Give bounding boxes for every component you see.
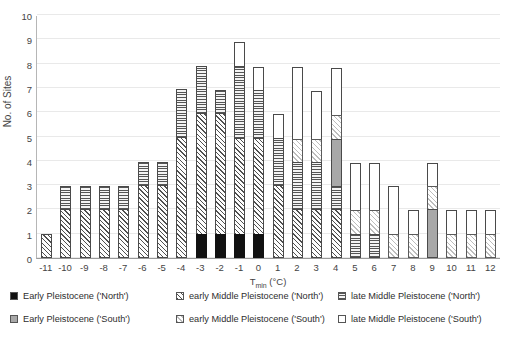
- bar-segment-lmp_north: [99, 186, 110, 210]
- bar-slot-9: [423, 16, 442, 258]
- legend-swatch-lmp_south-icon: [338, 315, 346, 323]
- bar-slot-5: [346, 16, 365, 258]
- legend-swatch-emp_south-icon: [176, 315, 184, 323]
- y-tick-8: 8: [2, 59, 32, 70]
- bar-slot-4: [326, 16, 345, 258]
- bar-segment-emp_north: [118, 209, 129, 258]
- bar-6[interactable]: [369, 164, 380, 258]
- bar-2[interactable]: [292, 68, 303, 258]
- bar--2[interactable]: [215, 91, 226, 258]
- bar-slot-2: [288, 16, 307, 258]
- bar--6[interactable]: [138, 163, 149, 258]
- bar-segment-lmp_north: [157, 162, 168, 186]
- bar-segment-emp_north: [331, 209, 342, 258]
- y-tick-10: 10: [2, 11, 32, 22]
- x-tick-9: 9: [423, 262, 442, 276]
- x-tick-0: 0: [249, 262, 268, 276]
- x-tick-10: 10: [442, 262, 461, 276]
- bar--5[interactable]: [157, 163, 168, 258]
- bar-segment-emp_south: [388, 234, 399, 258]
- bar-segment-lmp_north: [369, 234, 380, 258]
- bar-11[interactable]: [466, 211, 477, 258]
- bar-segment-lmp_north: [331, 186, 342, 210]
- bar-slot--5: [153, 16, 172, 258]
- legend-item-emp_south[interactable]: early Middle Pleistocene ('South'): [176, 314, 325, 324]
- bar--8[interactable]: [99, 187, 110, 258]
- bar-segment-ep_north: [215, 234, 226, 258]
- bar-slot-1: [269, 16, 288, 258]
- x-tick-5: 5: [345, 262, 364, 276]
- bar-segment-lmp_south: [253, 67, 264, 91]
- legend-item-emp_north[interactable]: early Middle Pleistocene ('North'): [176, 291, 323, 301]
- bar-4[interactable]: [331, 69, 342, 258]
- bar-segment-emp_south: [485, 234, 496, 258]
- bar-slot--9: [76, 16, 95, 258]
- bar-segment-emp_north: [41, 234, 52, 258]
- bar-segment-lmp_north: [350, 234, 361, 258]
- bar-group: [37, 16, 500, 258]
- x-tick--6: -6: [133, 262, 152, 276]
- bar-12[interactable]: [485, 211, 496, 258]
- plot-area: [36, 16, 500, 259]
- bar-segment-emp_south: [369, 210, 380, 234]
- bar--3[interactable]: [196, 67, 207, 258]
- chart-legend: Early Pleistocene ('North')early Middle …: [0, 291, 506, 337]
- bar-segment-emp_north: [99, 209, 110, 258]
- bar-segment-lmp_north: [215, 90, 226, 114]
- bar--10[interactable]: [60, 187, 71, 258]
- bar-5[interactable]: [350, 164, 361, 258]
- bar-segment-ep_north: [234, 234, 245, 258]
- y-tick-3: 3: [2, 181, 32, 192]
- bar-10[interactable]: [446, 211, 457, 258]
- bar--9[interactable]: [80, 187, 91, 258]
- x-tick-7: 7: [384, 262, 403, 276]
- x-tick--7: -7: [113, 262, 132, 276]
- bar-1[interactable]: [273, 115, 284, 258]
- x-axis-title-unit: (°C): [267, 276, 287, 287]
- legend-item-lmp_south[interactable]: late Middle Pleistocene ('South'): [338, 314, 482, 324]
- legend-row-north: Early Pleistocene ('North')early Middle …: [0, 291, 506, 310]
- chart-root: No. of Sites 012345678910 -11-10-9-8-7-6…: [0, 0, 506, 339]
- x-tick--11: -11: [36, 262, 55, 276]
- bar-segment-emp_north: [60, 209, 71, 258]
- bar-segment-lmp_north: [138, 162, 149, 186]
- legend-swatch-ep_south-icon: [10, 315, 18, 323]
- bar-segment-emp_south: [311, 139, 322, 163]
- x-tick-2: 2: [287, 262, 306, 276]
- bar-segment-lmp_north: [311, 162, 322, 211]
- legend-item-lmp_north[interactable]: late Middle Pleistocene ('North'): [338, 291, 480, 301]
- bar--1[interactable]: [234, 43, 245, 258]
- bar-segment-emp_north: [80, 209, 91, 258]
- bar-0[interactable]: [253, 68, 264, 258]
- bar-segment-lmp_south: [408, 210, 419, 234]
- bar-segment-emp_north: [157, 185, 168, 258]
- bar-7[interactable]: [388, 187, 399, 258]
- gridline-10: [37, 14, 500, 15]
- y-tick-4: 4: [2, 156, 32, 167]
- legend-item-ep_north[interactable]: Early Pleistocene ('North'): [10, 291, 129, 301]
- bar-segment-emp_south: [466, 234, 477, 258]
- bar-segment-lmp_north: [234, 66, 245, 139]
- bar-segment-emp_north: [138, 185, 149, 258]
- bar-segment-emp_north: [311, 209, 322, 258]
- bar-slot--4: [172, 16, 191, 258]
- bar-slot-7: [384, 16, 403, 258]
- x-tick--9: -9: [75, 262, 94, 276]
- bar-segment-emp_south: [350, 210, 361, 234]
- bar-segment-lmp_south: [388, 186, 399, 235]
- legend-item-ep_south[interactable]: Early Pleistocene ('South'): [10, 314, 130, 324]
- bar-slot-12: [481, 16, 500, 258]
- bar-3[interactable]: [311, 92, 322, 258]
- x-axis-title: Tmin (°C): [36, 276, 500, 289]
- bar-slot-8: [404, 16, 423, 258]
- y-axis-tick-labels: 012345678910: [0, 16, 32, 259]
- bar--4[interactable]: [176, 90, 187, 258]
- bar-8[interactable]: [408, 211, 419, 258]
- bar--7[interactable]: [118, 187, 129, 258]
- legend-label-lmp_south: late Middle Pleistocene ('South'): [351, 314, 482, 324]
- bar--11[interactable]: [41, 235, 52, 258]
- bar-segment-emp_north: [196, 113, 207, 235]
- y-tick-9: 9: [2, 35, 32, 46]
- bar-9[interactable]: [427, 164, 438, 258]
- bar-slot--1: [230, 16, 249, 258]
